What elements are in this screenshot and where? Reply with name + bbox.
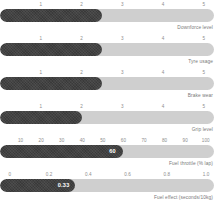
bar-track [0,111,214,124]
axis-tick-label: 80 [162,136,167,145]
bar-fill [0,77,102,90]
axis-tick-label: 5 [202,68,205,77]
axis-ticks: 12345 [0,0,214,9]
bar-caption: Fuel throttle (% lap) [0,158,214,170]
axis-tick-label: 0.6 [124,170,131,179]
axis-ticks: 12345 [0,34,214,43]
axis-ticks: 12345 [0,68,214,77]
bar-track [0,9,214,22]
bar-track: 0.33 [0,179,214,192]
axis-tick-label: 3 [121,34,124,43]
axis-tick-label: 4 [162,68,165,77]
axis-tick-label: 4 [162,34,165,43]
bar-track: 60 [0,145,214,158]
bar-caption: Downforce level [0,22,214,34]
axis-tick-label: 40 [80,136,85,145]
axis-ticks: 102030405060708090100 [0,136,214,145]
axis-tick-label: 0.2 [46,170,53,179]
bullet-row: 00.20.40.60.81.00.33Fuel effect (seconds… [0,170,214,201]
bullet-row: 12345Downforce level [0,0,214,34]
bar-caption: Fuel effect (seconds/10kg) [0,192,214,201]
axis-tick-label: 0.8 [164,170,171,179]
axis-tick-label: 0.4 [85,170,92,179]
axis-tick-label: 1 [39,34,42,43]
axis-tick-label: 5 [202,102,205,111]
axis-tick-label: 3 [121,102,124,111]
axis-tick-label: 2 [80,34,83,43]
axis-tick-label: 5 [202,0,205,9]
bullet-row: 12345Brake wear [0,68,214,102]
axis-tick-label: 10 [18,136,23,145]
axis-tick-label: 2 [80,0,83,9]
bar-track [0,77,214,90]
bar-fill [0,179,75,192]
axis-tick-label: 70 [141,136,146,145]
axis-tick-label: 5 [202,34,205,43]
axis-tick-label: 90 [183,136,188,145]
bar-fill [0,111,82,124]
bar-caption: Brake wear [0,90,214,102]
axis-tick-label: 0 [8,170,11,179]
bar-fill [0,43,102,56]
bullet-chart: 12345Downforce level12345Tyre usage12345… [0,0,214,201]
bar-fill [0,9,102,22]
axis-ticks: 12345 [0,102,214,111]
axis-tick-label: 1 [39,68,42,77]
bar-caption: Grip level [0,124,214,136]
axis-tick-label: 100 [202,136,210,145]
axis-tick-label: 1.0 [203,170,210,179]
axis-tick-label: 4 [162,0,165,9]
axis-tick-label: 50 [100,136,105,145]
axis-tick-label: 1 [39,0,42,9]
axis-tick-label: 60 [121,136,126,145]
axis-tick-label: 1 [39,102,42,111]
axis-tick-label: 2 [80,68,83,77]
axis-ticks: 00.20.40.60.81.0 [0,170,214,179]
bullet-row: 12345Grip level [0,102,214,136]
axis-tick-label: 3 [121,68,124,77]
bullet-row: 12345Tyre usage [0,34,214,68]
axis-tick-label: 3 [121,0,124,9]
bar-track [0,43,214,56]
axis-tick-label: 4 [162,102,165,111]
bar-fill [0,145,123,158]
bullet-row: 10203040506070809010060Fuel throttle (% … [0,136,214,170]
axis-tick-label: 30 [59,136,64,145]
axis-tick-label: 2 [80,102,83,111]
axis-tick-label: 20 [38,136,43,145]
bar-caption: Tyre usage [0,56,214,68]
